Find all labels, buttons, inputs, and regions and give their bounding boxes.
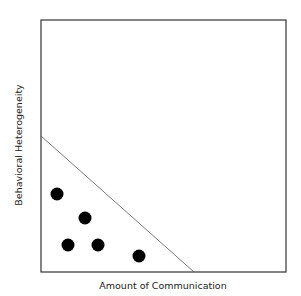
data-point <box>133 250 146 263</box>
y-axis-label: Behavioral Heterogeneity <box>13 84 24 206</box>
data-points <box>51 188 146 263</box>
data-point <box>92 239 105 252</box>
data-point <box>62 239 75 252</box>
data-point <box>51 188 64 201</box>
x-axis-label: Amount of Communication <box>99 280 226 291</box>
data-point <box>79 212 92 225</box>
boundary-line <box>41 136 194 272</box>
plot-frame <box>41 20 286 272</box>
scatter-diagram: Amount of Communication Behavioral Heter… <box>0 0 301 296</box>
